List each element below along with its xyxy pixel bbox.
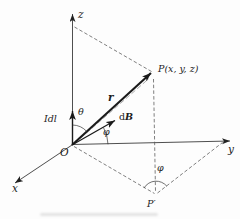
vector-r-label: r	[108, 92, 114, 103]
diagram-svg	[0, 0, 240, 219]
y-axis-line	[72, 141, 230, 145]
current-element-label: Idl	[44, 114, 57, 124]
y-axis-label: y	[228, 144, 234, 155]
figure-canvas: z y x O P(x, y, z) r dB Idl θ φ φ P′	[0, 0, 240, 219]
x-axis-label: x	[12, 183, 18, 194]
db-b-symbol: B	[125, 111, 133, 122]
vector-db-label: dB	[119, 112, 133, 122]
idl-length-symbol: l	[54, 113, 57, 124]
z-axis-label: z	[78, 9, 84, 20]
dashed-origin-to-pprime	[74, 147, 155, 194]
point-pprime-label: P′	[147, 199, 156, 209]
origin-label: O	[60, 147, 69, 158]
dashed-p-to-pprime	[154, 79, 156, 192]
point-p-label: P(x, y, z)	[158, 64, 198, 74]
phi-angle-label-origin: φ	[103, 127, 110, 137]
dashed-ztop-to-p	[75, 27, 152, 72]
dashed-pprime-to-yaxis	[158, 143, 223, 194]
theta-angle-label: θ	[78, 107, 84, 117]
scan-artifact	[40, 213, 158, 216]
phi-angle-label-projection: φ	[157, 163, 164, 173]
theta-angle-arc	[73, 125, 87, 132]
